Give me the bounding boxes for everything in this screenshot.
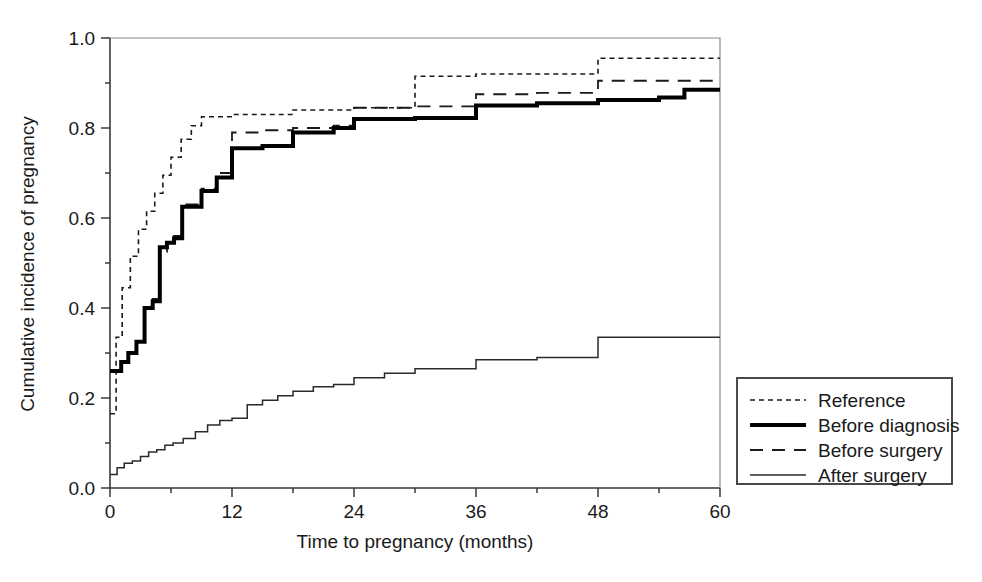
figure-background — [0, 0, 982, 582]
chart-legend: ReferenceBefore diagnosisBefore surgeryA… — [737, 378, 960, 486]
x-tick-label: 60 — [709, 501, 730, 522]
x-tick-label: 24 — [343, 501, 365, 522]
y-tick-label: 1.0 — [69, 28, 95, 49]
legend-label-before-surgery: Before surgery — [818, 440, 943, 461]
legend-label-before-diagnosis: Before diagnosis — [818, 415, 960, 436]
x-tick-label: 36 — [465, 501, 486, 522]
y-tick-label: 0.0 — [69, 478, 95, 499]
y-tick-label: 0.8 — [69, 118, 95, 139]
y-tick-label: 0.6 — [69, 208, 95, 229]
legend-label-reference: Reference — [818, 390, 906, 411]
legend-label-after-surgery: After surgery — [818, 465, 927, 486]
chart-canvas: 01224364860 0.00.20.40.60.81.0 Time to p… — [0, 0, 982, 582]
x-tick-label: 12 — [221, 501, 242, 522]
y-tick-label: 0.2 — [69, 388, 95, 409]
y-tick-label: 0.4 — [69, 298, 96, 319]
x-tick-label: 0 — [105, 501, 116, 522]
x-tick-label: 48 — [587, 501, 608, 522]
y-axis-title: Cumulative incidence of pregnancy — [17, 116, 38, 412]
chart-figure: 01224364860 0.00.20.40.60.81.0 Time to p… — [0, 0, 982, 582]
x-axis-title: Time to pregnancy (months) — [297, 531, 534, 552]
